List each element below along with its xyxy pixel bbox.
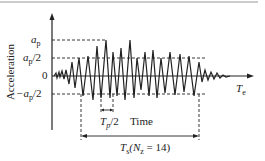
level-label-ap-half: ap/2 xyxy=(23,52,41,66)
level-label-neg-ap-half: −ap/2 xyxy=(16,88,42,102)
tp-half-label: Tp/2 xyxy=(100,116,119,130)
x-axis-arrow-icon xyxy=(247,74,254,79)
ts-label: Ts(Nz = 14) xyxy=(120,142,170,156)
acceleration-waveform xyxy=(54,40,230,100)
ts-right-arrow-icon xyxy=(193,134,199,138)
level-label-zero: 0 xyxy=(42,70,48,81)
y-axis-arrow-icon xyxy=(50,13,55,20)
x-axis-label: Time xyxy=(130,116,153,127)
x-axis-end-label: Te xyxy=(236,83,246,97)
level-label-ap: ap xyxy=(31,34,41,48)
ts-left-arrow-icon xyxy=(81,134,87,138)
y-axis-label: Acceleration xyxy=(4,44,16,100)
waveform-diagram xyxy=(0,0,265,161)
